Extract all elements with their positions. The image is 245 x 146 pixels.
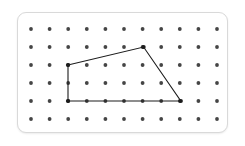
peg-r4-c4[interactable] [85,81,89,85]
peg-r6-c8[interactable] [159,117,163,121]
peg-r3-c1[interactable] [29,63,33,67]
geoboard-canvas [0,0,245,146]
peg-r4-c6[interactable] [122,81,126,85]
peg-r6-c1[interactable] [29,117,33,121]
peg-r1-c8[interactable] [159,27,163,31]
peg-r1-c9[interactable] [178,27,182,31]
peg-r1-c6[interactable] [122,27,126,31]
peg-r6-c3[interactable] [66,117,70,121]
quadrilateral-outline[interactable] [68,47,181,101]
peg-r2-c4[interactable] [85,45,89,49]
peg-r6-c10[interactable] [197,117,201,121]
peg-r1-c7[interactable] [141,27,145,31]
peg-r3-c6[interactable] [122,63,126,67]
peg-r4-c5[interactable] [104,81,108,85]
peg-r6-c4[interactable] [85,117,89,121]
peg-r4-c7[interactable] [141,81,145,85]
peg-r4-c11[interactable] [215,81,219,85]
peg-r2-c10[interactable] [197,45,201,49]
peg-r4-c10[interactable] [197,81,201,85]
peg-r5-c11[interactable] [215,99,219,103]
peg-r4-c1[interactable] [29,81,33,85]
peg-r2-c6[interactable] [122,45,126,49]
vertex-bottom-left-vertex[interactable] [66,99,70,103]
peg-r4-c2[interactable] [48,81,52,85]
peg-r3-c9[interactable] [178,63,182,67]
peg-r3-c11[interactable] [215,63,219,67]
peg-r1-c5[interactable] [104,27,108,31]
geoboard-figure [0,0,245,146]
peg-r1-c1[interactable] [29,27,33,31]
peg-r2-c9[interactable] [178,45,182,49]
peg-r6-c2[interactable] [48,117,52,121]
peg-r5-c2[interactable] [48,99,52,103]
peg-r6-c11[interactable] [215,117,219,121]
peg-r1-c3[interactable] [66,27,70,31]
quadrilateral-shape [68,47,181,101]
vertex-apex-vertex[interactable] [142,45,146,49]
vertex-left-vertex[interactable] [66,63,70,67]
peg-r2-c11[interactable] [215,45,219,49]
peg-r6-c5[interactable] [104,117,108,121]
peg-r1-c2[interactable] [48,27,52,31]
peg-r3-c8[interactable] [159,63,163,67]
peg-r2-c1[interactable] [29,45,33,49]
peg-grid [29,27,219,121]
peg-r2-c2[interactable] [48,45,52,49]
peg-r6-c7[interactable] [141,117,145,121]
quadrilateral-vertices [66,45,183,103]
peg-r3-c4[interactable] [85,63,89,67]
peg-r6-c6[interactable] [122,117,126,121]
peg-r1-c11[interactable] [215,27,219,31]
peg-r5-c10[interactable] [197,99,201,103]
peg-r5-c1[interactable] [29,99,33,103]
peg-r6-c9[interactable] [178,117,182,121]
peg-r3-c10[interactable] [197,63,201,67]
peg-r3-c5[interactable] [104,63,108,67]
peg-r2-c3[interactable] [66,45,70,49]
peg-r2-c5[interactable] [104,45,108,49]
peg-r4-c8[interactable] [159,81,163,85]
peg-r1-c10[interactable] [197,27,201,31]
peg-r3-c2[interactable] [48,63,52,67]
peg-r2-c8[interactable] [159,45,163,49]
peg-r4-c9[interactable] [178,81,182,85]
peg-r3-c7[interactable] [141,63,145,67]
vertex-right-vertex[interactable] [179,99,183,103]
peg-r1-c4[interactable] [85,27,89,31]
